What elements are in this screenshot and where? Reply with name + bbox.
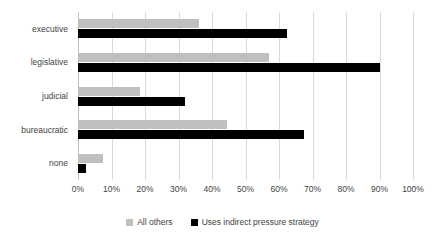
legend-item-uses-indirect-pressure-strategy[interactable]: Uses indirect pressure strategy	[191, 217, 319, 227]
legend-item-all-others[interactable]: All others	[126, 217, 172, 227]
bar-group-judicial	[78, 87, 413, 106]
y-axis-label-executive: executive	[0, 24, 68, 34]
legend-swatch-icon	[191, 219, 198, 226]
x-axis-tick-0: 0%	[72, 184, 84, 194]
y-axis-label-bureaucratic: bureaucratic	[0, 125, 68, 135]
x-axis-tick-80: 80%	[337, 184, 354, 194]
x-axis-labels: 0%10%20%30%40%50%60%70%80%90%100%	[78, 184, 413, 198]
bar-bureaucratic-uses-indirect-pressure-strategy	[78, 130, 304, 139]
y-axis-label-legislative: legislative	[0, 57, 68, 67]
bar-group-none	[78, 154, 413, 173]
bar-none-all-others	[78, 154, 103, 163]
legend-swatch-icon	[126, 219, 133, 226]
bar-executive-uses-indirect-pressure-strategy	[78, 29, 287, 38]
x-axis-tick-30: 30%	[170, 184, 187, 194]
bar-bureaucratic-all-others	[78, 120, 227, 129]
legend-label: All others	[137, 217, 172, 227]
chart-legend: All othersUses indirect pressure strateg…	[0, 214, 445, 230]
x-axis-tick-20: 20%	[136, 184, 153, 194]
plot-area	[78, 12, 413, 180]
bar-judicial-all-others	[78, 87, 140, 96]
x-axis-tick-90: 90%	[371, 184, 388, 194]
bar-group-legislative	[78, 53, 413, 72]
bar-chart: executivelegislativejudicialbureaucratic…	[0, 0, 445, 240]
bar-group-bureaucratic	[78, 120, 413, 139]
gridline-100	[413, 12, 414, 180]
bar-none-uses-indirect-pressure-strategy	[78, 164, 86, 173]
legend-label: Uses indirect pressure strategy	[202, 217, 319, 227]
x-axis-tick-40: 40%	[203, 184, 220, 194]
y-axis-labels: executivelegislativejudicialbureaucratic…	[0, 12, 74, 180]
bar-executive-all-others	[78, 19, 199, 28]
x-axis-tick-50: 50%	[237, 184, 254, 194]
bar-legislative-uses-indirect-pressure-strategy	[78, 63, 380, 72]
bar-group-executive	[78, 19, 413, 38]
bar-judicial-uses-indirect-pressure-strategy	[78, 97, 185, 106]
x-axis-tick-10: 10%	[103, 184, 120, 194]
x-axis-tick-70: 70%	[304, 184, 321, 194]
y-axis-label-none: none	[0, 158, 68, 168]
x-axis-tick-60: 60%	[270, 184, 287, 194]
y-axis-label-judicial: judicial	[0, 91, 68, 101]
x-axis-tick-100: 100%	[402, 184, 424, 194]
bar-legislative-all-others	[78, 53, 269, 62]
